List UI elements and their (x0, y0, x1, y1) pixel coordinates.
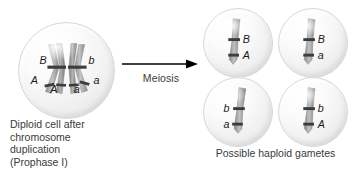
band-lower (232, 123, 243, 126)
gamete-cell-3: b a (203, 77, 273, 147)
gamete-3-lower-allele: a (223, 118, 229, 130)
gamete-2-lower-allele: a (318, 49, 324, 61)
caption-line-1: Diploid cell after (10, 118, 135, 131)
allele-label-a-outer-right: a (93, 74, 99, 86)
allele-label-A-outer-left: A (30, 74, 38, 86)
gamete-4-upper-allele: b (318, 102, 324, 114)
band-upper (228, 38, 240, 41)
caption-line-4: (Prophase I) (10, 156, 135, 169)
gamete-chromosome-3: b a (204, 78, 272, 146)
gamete-chromosome-1: B A (204, 9, 272, 77)
gamete-4-lower-allele: A (317, 118, 325, 130)
band-lower (303, 54, 314, 57)
allele-label-b-right: b (89, 54, 95, 66)
gamete-3-upper-allele: b (223, 102, 229, 114)
allele-label-A-inner-left: A (49, 84, 57, 96)
gamete-1-upper-allele: B (243, 33, 250, 45)
gametes-caption: Possible haploid gametes (198, 147, 353, 159)
diploid-cell: B b A A a a (18, 22, 115, 119)
gamete-1-lower-allele: A (242, 49, 250, 61)
gamete-chromosome-2: B a (279, 9, 347, 77)
caption-line-3: duplication (10, 143, 135, 156)
meiosis-label: Meiosis (118, 72, 204, 84)
chromatid-body (229, 19, 240, 65)
band-upper (233, 107, 245, 110)
gamete-chromosome-4: b A (279, 78, 347, 146)
gamete-cell-1: B A (203, 8, 273, 78)
chromatid-body (304, 19, 315, 65)
band-upper (303, 107, 315, 110)
chromatid-body (234, 88, 246, 134)
gamete-2-upper-allele: B (318, 33, 325, 45)
meiosis-arrow-icon (122, 57, 198, 71)
gamete-cell-4: b A (278, 77, 348, 147)
gamete-cell-2: B a (278, 8, 348, 78)
tetrad-chromosomes: B b A A a a (19, 23, 114, 118)
allele-label-a-inner-right: a (74, 84, 80, 96)
chromatid-body (304, 88, 315, 134)
band-lower (228, 54, 239, 57)
diploid-cell-caption: Diploid cell after chromosome duplicatio… (10, 118, 135, 168)
band-upper (303, 38, 315, 41)
allele-label-B-left: B (40, 54, 47, 66)
band-lower (303, 123, 314, 126)
caption-line-2: chromosome (10, 131, 135, 144)
